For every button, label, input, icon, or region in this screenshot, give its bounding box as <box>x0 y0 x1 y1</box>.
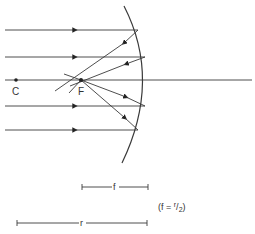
focal-point <box>79 78 83 82</box>
center-label: C <box>12 86 19 97</box>
concave-mirror-diagram: C F f (f = r/2) r <box>0 0 255 234</box>
radius-label: r <box>80 218 83 228</box>
focus-label: F <box>78 86 84 97</box>
center-point <box>14 78 18 82</box>
relation-label: (f = r/2) <box>158 201 186 213</box>
focal-length-label: f <box>113 182 116 192</box>
